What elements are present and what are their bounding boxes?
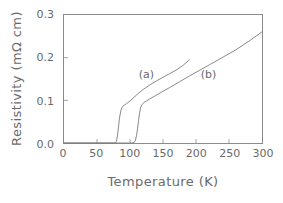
y-axis-title: Resistivity (mΩ cm) [9,4,24,154]
x-tick-label-150: 150 [153,148,174,159]
plot-area: (a) (b) [63,14,263,144]
x-tick-label-200: 200 [186,148,207,159]
curve-a-annotation: (a) [139,68,154,81]
x-axis-title: Temperature (K) [63,174,263,189]
plot-canvas [64,15,262,143]
x-tick-label-100: 100 [119,148,140,159]
resistivity-vs-temperature-figure: 0.0 0.1 0.2 0.3 0 50 100 150 200 250 300… [0,0,283,203]
y-tick-label-3: 0.3 [22,9,54,20]
y-tick-label-1: 0.1 [22,95,54,106]
curve-b-annotation: (b) [201,68,217,81]
curve-b-line [64,32,262,143]
y-tick-label-2: 0.2 [22,52,54,63]
x-tick-label-250: 250 [219,148,240,159]
x-tick-label-0: 0 [60,148,67,159]
x-tick-label-50: 50 [89,148,103,159]
curve-a-line [64,60,189,143]
x-tick-label-300: 300 [253,148,274,159]
y-tick-label-0: 0.0 [22,139,54,150]
